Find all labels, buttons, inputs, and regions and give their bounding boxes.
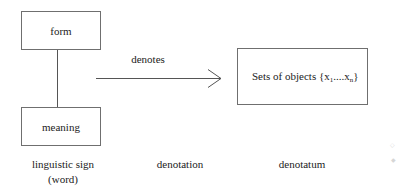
scan-artifact-mark: ◆ (391, 156, 396, 163)
meaning-label: meaning (42, 121, 80, 133)
caption-denotatum: denotatum (264, 158, 340, 170)
caption-denotation: denotation (142, 158, 218, 170)
form-label: form (50, 25, 71, 37)
denotatum-box: Sets of objects {x1....xn} (237, 48, 368, 105)
caption-linguistic-sign: linguistic sign (20, 158, 106, 170)
denotes-label: denotes (120, 53, 176, 65)
sets-of-objects-label: Sets of objects {x1....xn} (252, 70, 358, 84)
caption-word: (word) (20, 173, 106, 185)
scan-artifact-mark: ◇ (390, 141, 395, 148)
form-box: form (21, 11, 101, 50)
meaning-box: meaning (21, 107, 101, 146)
